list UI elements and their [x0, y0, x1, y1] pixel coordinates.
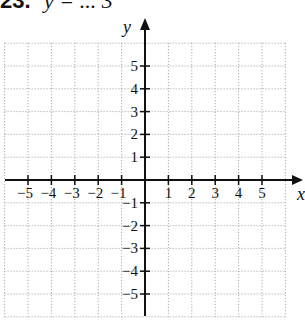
y-tick-label: −5: [122, 286, 138, 302]
y-tick-label: −4: [122, 263, 138, 279]
x-tick-label: 2: [188, 185, 196, 201]
y-tick-label: 2: [131, 126, 139, 142]
x-tick-label: −2: [87, 185, 103, 201]
x-tick-label: −4: [40, 185, 56, 201]
y-tick-label: 4: [131, 81, 139, 97]
x-tick-label: −5: [17, 185, 33, 201]
x-tick-label: 4: [235, 185, 243, 201]
x-tick-label: 3: [211, 185, 219, 201]
y-tick-label: 5: [131, 58, 139, 74]
y-tick-label: −2: [122, 218, 138, 234]
y-tick-label: −3: [122, 240, 138, 256]
x-tick-label: 1: [165, 185, 173, 201]
x-tick-label: 5: [258, 185, 266, 201]
x-tick-label: −3: [64, 185, 80, 201]
y-axis-label: y: [121, 17, 131, 37]
y-tick-label: −1: [122, 195, 138, 211]
y-tick-label: 3: [131, 104, 139, 120]
y-tick-label: 1: [131, 149, 139, 165]
coordinate-plane: −5−4−3−2−11234554321−1−2−3−4−5 x y: [0, 0, 305, 320]
y-axis-arrow-icon: [140, 18, 150, 30]
x-axis-label: x: [296, 184, 305, 204]
